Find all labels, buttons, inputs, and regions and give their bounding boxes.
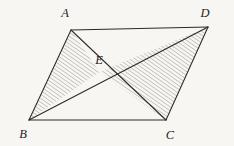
geometry-canvas: A B C D E xyxy=(0,0,234,146)
vertex-label-b: B xyxy=(19,127,27,141)
vertex-label-e: E xyxy=(94,53,103,67)
vertex-label-a: A xyxy=(60,6,69,20)
vertex-label-c: C xyxy=(166,128,175,142)
geometry-figure: A B C D E xyxy=(0,0,234,146)
vertex-label-d: D xyxy=(199,6,209,20)
